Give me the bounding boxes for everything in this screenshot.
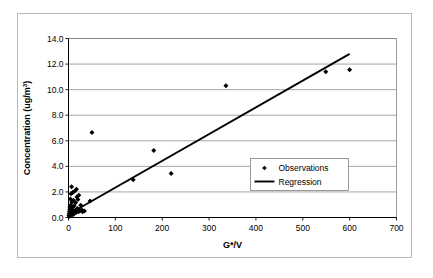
- x-tick-label: 200: [155, 223, 169, 233]
- data-point: [169, 171, 174, 176]
- data-point: [69, 184, 74, 189]
- x-tick-label: 100: [108, 223, 122, 233]
- x-axis-title: G*/V: [223, 240, 242, 250]
- y-tick-label: 6.0: [52, 136, 64, 146]
- x-tick-label: 500: [296, 223, 310, 233]
- data-point: [223, 83, 228, 88]
- y-tick-label: 12.0: [47, 59, 64, 69]
- y-tick-label: 0.0: [52, 213, 64, 223]
- y-tick-label: 14.0: [47, 34, 64, 44]
- data-point: [323, 69, 328, 74]
- y-axis: 0.02.04.06.08.010.012.014.0: [47, 34, 69, 223]
- y-tick-label: 4.0: [52, 161, 64, 171]
- y-tick-label: 8.0: [52, 110, 64, 120]
- data-point: [347, 67, 352, 72]
- data-point: [89, 130, 94, 135]
- x-tick-label: 0: [66, 223, 71, 233]
- y-tick-label: 10.0: [47, 85, 64, 95]
- x-tick-label: 700: [389, 223, 403, 233]
- x-axis: 0100200300400500600700: [66, 218, 404, 233]
- x-tick-label: 600: [343, 223, 357, 233]
- legend-label: Regression: [279, 177, 322, 187]
- x-tick-label: 400: [249, 223, 263, 233]
- y-axis-title: Concentration (ug/m3): [21, 81, 32, 175]
- series-observations: [66, 67, 352, 218]
- legend: ObservationsRegression: [251, 159, 349, 191]
- y-tick-label: 2.0: [52, 187, 64, 197]
- legend-label: Observations: [279, 163, 329, 173]
- chart-figure: 0.02.04.06.08.010.012.014.00100200300400…: [0, 0, 433, 278]
- data-point: [151, 148, 156, 153]
- scatter-chart: 0.02.04.06.08.010.012.014.00100200300400…: [0, 0, 433, 278]
- x-tick-label: 300: [202, 223, 216, 233]
